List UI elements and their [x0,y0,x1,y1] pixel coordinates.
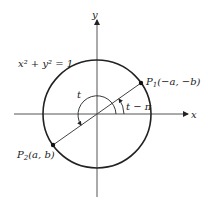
diagram-canvas: y x x² + y² = 1 t t − π P1(−a, −b) P2(a,… [0,0,210,209]
angle-t-minus-pi-arc [119,99,124,114]
point-p1 [139,81,143,85]
angle-t-label: t [77,89,82,100]
svg-text:P2(a, b): P2(a, b) [16,149,55,162]
equation-label: x² + y² = 1 [18,58,73,69]
p2-label: P2(a, b) [16,149,55,162]
point-p2 [51,143,55,147]
unit-circle-diagram: y x x² + y² = 1 t t − π P1(−a, −b) P2(a,… [0,0,210,209]
y-axis-label: y [91,9,98,20]
svg-text:P1(−a, −b): P1(−a, −b) [145,76,201,89]
x-axis-label: x [191,109,197,120]
p1-label: P1(−a, −b) [145,76,201,89]
angle-t-minus-pi-label: t − π [126,101,152,112]
